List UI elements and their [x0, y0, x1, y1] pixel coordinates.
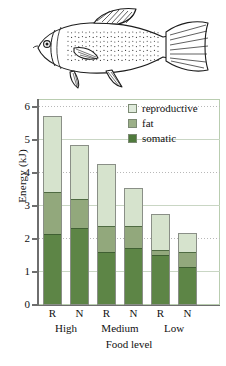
legend-label-somatic: somatic — [142, 132, 176, 144]
x-tick-label-1: N — [70, 307, 89, 319]
legend-swatch-reproductive — [128, 104, 137, 113]
bar-high-n — [70, 145, 89, 305]
bar-segment-reproductive — [152, 215, 169, 250]
x-group-label-medium: Medium — [97, 322, 143, 334]
legend-item-fat: fat — [128, 116, 224, 130]
bar-segment-fat — [98, 226, 115, 251]
y-tick-6: 6 — [4, 101, 30, 112]
x-group-label-high: High — [43, 322, 89, 334]
bar-segment-reproductive — [44, 117, 61, 192]
bar-segment-fat — [44, 192, 61, 234]
x-tick-label-5: N — [178, 307, 197, 319]
legend-swatch-fat — [128, 119, 137, 128]
bar-segment-somatic — [98, 252, 115, 304]
bar-segment-fat — [179, 252, 196, 267]
y-tick-0: 0 — [4, 299, 30, 310]
bar-segment-reproductive — [179, 234, 196, 252]
fish-illustration: {} — [18, 2, 214, 90]
legend-swatch-somatic — [128, 134, 137, 143]
bar-medium-n — [124, 188, 143, 305]
bar-segment-reproductive — [71, 146, 88, 199]
x-tick-label-3: N — [124, 307, 143, 319]
figure-panel: {} 6 5 4 3 2 1 0 Energy (kJ) reproductiv… — [0, 0, 226, 366]
bar-low-r — [151, 214, 170, 305]
x-axis-title: Food level — [38, 338, 220, 350]
bar-medium-r — [97, 164, 116, 305]
x-tick-label-4: R — [151, 307, 170, 319]
y-axis-title: Energy (kJ) — [16, 116, 28, 236]
bar-segment-somatic — [152, 255, 169, 304]
bar-segment-fat — [71, 199, 88, 228]
bar-segment-somatic — [125, 248, 142, 304]
legend-item-somatic: somatic — [128, 131, 224, 145]
bar-high-r — [43, 116, 62, 305]
y-tick-1: 1 — [4, 266, 30, 277]
x-tick-label-2: R — [97, 307, 116, 319]
bar-segment-somatic — [44, 234, 61, 304]
legend-label-fat: fat — [142, 117, 154, 129]
bar-segment-reproductive — [98, 165, 115, 226]
bar-segment-reproductive — [125, 189, 142, 226]
x-group-label-low: Low — [151, 322, 197, 334]
legend-label-reproductive: reproductive — [142, 102, 198, 114]
bar-segment-somatic — [179, 267, 196, 304]
bar-segment-fat — [125, 226, 142, 248]
bar-segment-somatic — [71, 228, 88, 304]
legend: reproductive fat somatic — [128, 101, 224, 146]
legend-item-reproductive: reproductive — [128, 101, 224, 115]
bar-low-n — [178, 233, 197, 305]
x-tick-label-0: R — [43, 307, 62, 319]
